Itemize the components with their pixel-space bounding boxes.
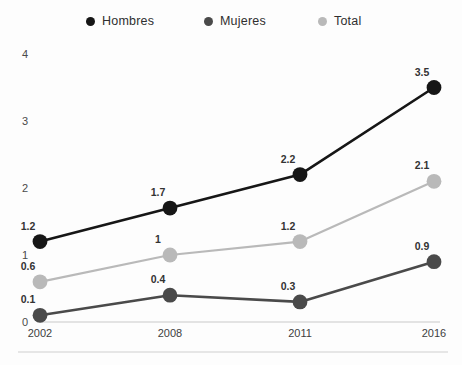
x-axis: 2002200820112016 — [28, 327, 446, 339]
data-point-label: 1.2 — [21, 220, 36, 232]
data-point-marker[interactable] — [33, 274, 48, 289]
series-line-hombres — [40, 88, 434, 242]
data-point-label: 0.4 — [151, 273, 166, 285]
series-lines — [40, 88, 434, 316]
x-axis-tick-label: 2016 — [422, 327, 446, 339]
y-axis-tick-label: 3 — [22, 115, 28, 127]
data-point-label: 0.3 — [281, 280, 296, 292]
data-point-marker[interactable] — [163, 288, 178, 303]
data-point-marker[interactable] — [33, 234, 48, 249]
data-point-label: 2.2 — [281, 153, 296, 165]
x-axis-tick-label: 2008 — [158, 327, 182, 339]
data-point-label: 0.6 — [21, 260, 36, 272]
data-point-label: 1 — [155, 233, 161, 245]
data-point-label: 1.2 — [281, 220, 296, 232]
data-point-marker[interactable] — [427, 254, 442, 269]
data-point-marker[interactable] — [293, 234, 308, 249]
data-point-marker[interactable] — [427, 80, 442, 95]
data-point-marker[interactable] — [163, 248, 178, 263]
series-markers — [33, 80, 442, 323]
data-point-label: 2.1 — [415, 159, 430, 171]
data-point-marker[interactable] — [293, 167, 308, 182]
data-point-marker[interactable] — [293, 295, 308, 310]
y-axis-tick-label: 2 — [22, 182, 28, 194]
x-axis-tick-label: 2002 — [28, 327, 52, 339]
chart-container: Hombres Mujeres Total 43210 1.21.72.23.5… — [0, 0, 462, 365]
x-axis-tick-label: 2011 — [288, 327, 312, 339]
y-axis-tick-label: 4 — [22, 48, 28, 60]
data-point-label: 0.1 — [21, 293, 36, 305]
chart-svg: 43210 1.21.72.23.50.10.40.30.90.611.22.1… — [0, 0, 462, 365]
data-point-label: 1.7 — [151, 186, 166, 198]
series-line-total — [40, 181, 434, 281]
plot-area: 43210 1.21.72.23.50.10.40.30.90.611.22.1… — [0, 0, 462, 365]
data-point-label: 3.5 — [415, 66, 430, 78]
data-point-marker[interactable] — [33, 308, 48, 323]
y-axis: 43210 — [22, 48, 28, 328]
data-point-labels: 1.21.72.23.50.10.40.30.90.611.22.1 — [21, 66, 430, 306]
data-point-marker[interactable] — [163, 201, 178, 216]
data-point-marker[interactable] — [427, 174, 442, 189]
data-point-label: 0.9 — [415, 240, 430, 252]
